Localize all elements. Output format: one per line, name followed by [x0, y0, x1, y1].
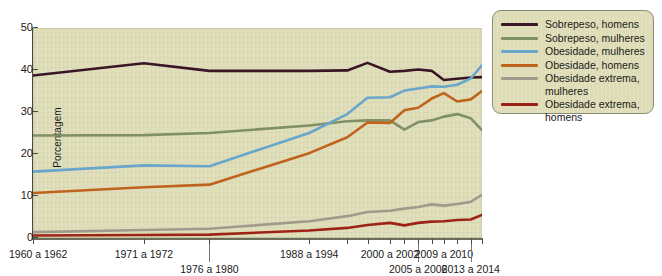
series-lines: [33, 28, 482, 238]
x-axis-label: 2005 a 2006: [389, 263, 447, 275]
legend-color-swatch: [501, 37, 538, 40]
y-tick-label: 20: [0, 147, 33, 159]
series-line: [33, 63, 482, 80]
x-tick-mark: [144, 239, 145, 244]
y-tick-label: 0: [0, 231, 33, 243]
series-line: [33, 114, 482, 135]
x-axis-label: 2009 a 2010: [415, 248, 473, 260]
legend-box: Sobrepeso, homensSobrepeso, mulheresObes…: [492, 10, 654, 114]
x-axis-label: 1960 a 1962: [9, 248, 67, 260]
legend-item[interactable]: Sobrepeso, mulheres: [501, 32, 647, 45]
legend-item-label: Sobrepeso, homens: [545, 18, 639, 31]
y-tick-label: 50: [0, 21, 33, 33]
legend-item-label: Obesidade, mulheres: [545, 45, 645, 58]
legend-item[interactable]: Obesidade extrema,mulheres: [501, 72, 647, 97]
legend-item[interactable]: Sobrepeso, homens: [501, 18, 647, 31]
chart-root: 01020304050 Porcentagem 1960 a 19621971 …: [0, 0, 662, 276]
legend-item-label: Obesidade, homens: [545, 59, 639, 72]
x-tick-mark: [347, 239, 348, 244]
y-tick-label: 10: [0, 189, 33, 201]
x-tick-mark: [444, 239, 445, 244]
y-tick-label: 40: [0, 63, 33, 75]
legend-item-label: Obesidade extrema,mulheres: [545, 72, 640, 97]
x-label-leader-line: [471, 244, 472, 262]
legend-item-label: Sobrepeso, mulheres: [545, 32, 645, 45]
x-tick-mark: [309, 239, 310, 244]
x-tick-mark: [432, 239, 433, 244]
y-tick-label: 30: [0, 105, 33, 117]
legend-item[interactable]: Obesidade, mulheres: [501, 45, 647, 58]
plot-area: 01020304050 Porcentagem 1960 a 19621971 …: [0, 0, 490, 276]
x-axis-label: 1971 a 1972: [115, 248, 173, 260]
x-axis-label: 2013 a 2014: [442, 263, 500, 275]
x-tick-mark: [404, 239, 405, 244]
legend-color-swatch: [501, 64, 538, 67]
x-tick-mark: [33, 239, 34, 244]
legend-item[interactable]: Obesidade extrema,homens: [501, 98, 647, 123]
legend-color-swatch: [501, 103, 538, 106]
legend-color-swatch: [501, 50, 538, 53]
x-tick-mark: [457, 239, 458, 244]
series-line: [33, 65, 482, 171]
x-axis-label: 1988 a 1994: [280, 248, 338, 260]
x-tick-mark: [482, 239, 483, 244]
legend-item[interactable]: Obesidade, homens: [501, 59, 647, 72]
x-tick-mark: [368, 239, 369, 244]
series-line: [33, 195, 482, 232]
x-tick-marks: [33, 239, 482, 245]
legend-item-label: Obesidade extrema,homens: [545, 98, 640, 123]
x-axis-label: 1976 a 1980: [180, 263, 238, 275]
legend-color-swatch: [501, 77, 538, 80]
series-line: [33, 91, 482, 193]
x-label-leader-line: [209, 244, 210, 262]
y-tick-labels: 01020304050: [0, 28, 33, 238]
x-tick-mark: [390, 239, 391, 244]
legend-color-swatch: [501, 23, 538, 26]
x-axis-label: 2000 a 2002: [361, 248, 419, 260]
